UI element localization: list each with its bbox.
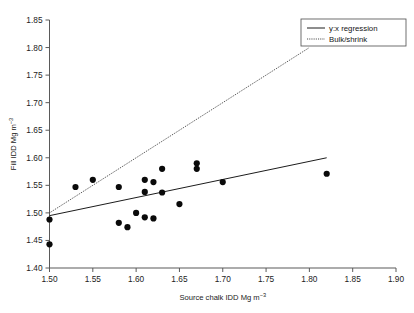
y-axis-title: Fill IDD Mg m−3 (8, 118, 18, 170)
data-point (150, 215, 156, 221)
y-tick-label: 1.60 (26, 153, 43, 163)
x-tick-label: 1.50 (41, 274, 58, 284)
data-point (194, 166, 200, 172)
x-tick-label: 1.60 (128, 274, 145, 284)
x-axis-tick-labels: 1.501.551.601.651.701.751.801.851.90 (41, 274, 404, 284)
y-tick-label: 1.75 (26, 70, 43, 80)
data-point (46, 241, 52, 247)
y-axis-tick-labels: 1.401.451.501.551.601.651.701.751.801.85 (26, 15, 43, 273)
x-tick-label: 1.65 (171, 274, 188, 284)
x-tick-label: 1.90 (388, 274, 405, 284)
data-point (124, 224, 130, 230)
x-tick-label: 1.75 (258, 274, 275, 284)
data-point (159, 166, 165, 172)
fitted-lines (50, 48, 327, 216)
data-points (46, 160, 329, 247)
legend-label-bulk-shrink[interactable]: Bulk/shrink (329, 35, 367, 44)
data-point (159, 189, 165, 195)
y-tick-label: 1.40 (26, 263, 43, 273)
data-point (194, 160, 200, 166)
plot-axes (50, 20, 397, 268)
x-tick-label: 1.55 (85, 274, 102, 284)
x-tick-label: 1.85 (345, 274, 362, 284)
y-tick-label: 1.55 (26, 180, 43, 190)
scatter-plot-canvas: 1.501.551.601.651.701.751.801.851.90 1.4… (0, 0, 414, 313)
y-tick-label: 1.70 (26, 98, 43, 108)
y-tick-label: 1.85 (26, 15, 43, 25)
data-point (142, 189, 148, 195)
y-tick-label: 1.50 (26, 208, 43, 218)
data-point (133, 210, 139, 216)
data-point (324, 171, 330, 177)
y-tick-label: 1.45 (26, 235, 43, 245)
x-axis-title: Source chalk IDD Mg m−3 (179, 292, 266, 302)
data-point (72, 184, 78, 190)
y-tick-label: 1.65 (26, 125, 43, 135)
data-point (46, 216, 52, 222)
axis-tickmarks (46, 20, 397, 272)
chart-figure: 1.501.551.601.651.701.751.801.851.90 1.4… (0, 0, 414, 313)
x-tick-label: 1.70 (215, 274, 232, 284)
chart-legend[interactable]: y:x regressionBulk/shrink (301, 19, 406, 46)
data-point (220, 179, 226, 185)
data-point (116, 220, 122, 226)
data-point (142, 214, 148, 220)
data-point (116, 184, 122, 190)
data-point (142, 177, 148, 183)
data-point (150, 179, 156, 185)
data-point (90, 177, 96, 183)
legend-label-regression[interactable]: y:x regression (329, 24, 378, 33)
y-tick-label: 1.80 (26, 43, 43, 53)
x-tick-label: 1.80 (301, 274, 318, 284)
data-point (176, 201, 182, 207)
